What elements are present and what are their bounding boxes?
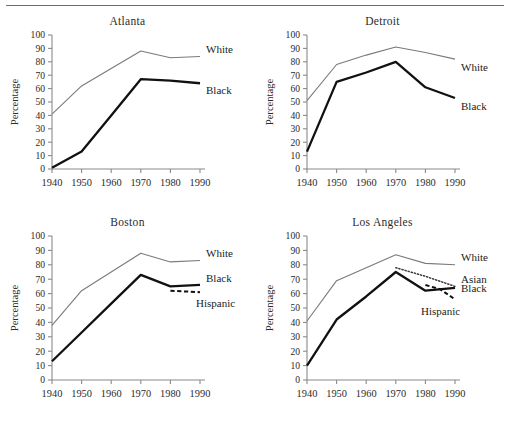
y-tick-label: 40 bbox=[290, 110, 300, 121]
x-tick-label: 1960 bbox=[101, 388, 122, 399]
x-tick-label: 1970 bbox=[130, 388, 151, 399]
y-tick-label: 100 bbox=[31, 230, 46, 241]
y-tick-label: 0 bbox=[40, 163, 45, 174]
x-tick-label: 1990 bbox=[190, 177, 211, 188]
y-tick-label: 100 bbox=[286, 230, 301, 241]
panel-atlanta: Atlanta 01020304050607080901001940195019… bbox=[0, 9, 255, 210]
y-tick-label: 50 bbox=[290, 96, 300, 107]
x-tick-label: 1960 bbox=[101, 177, 122, 188]
series-label-white: White bbox=[206, 43, 233, 55]
y-tick-label: 80 bbox=[290, 56, 300, 67]
y-tick-label: 10 bbox=[290, 360, 300, 371]
x-tick-label: 1990 bbox=[445, 177, 466, 188]
y-tick-label: 30 bbox=[290, 331, 300, 342]
x-tick-label: 1980 bbox=[160, 177, 181, 188]
x-tick-label: 1950 bbox=[71, 177, 92, 188]
y-axis-label: Percentage bbox=[9, 78, 20, 125]
series-line-white bbox=[307, 47, 455, 101]
y-tick-label: 70 bbox=[290, 274, 300, 285]
axis-lines bbox=[52, 236, 205, 380]
x-tick-label: 1990 bbox=[445, 388, 466, 399]
series-label-asian: Asian bbox=[461, 273, 487, 285]
x-tick-label: 1970 bbox=[130, 177, 151, 188]
series-label-black: Black bbox=[206, 84, 232, 96]
y-tick-label: 40 bbox=[35, 110, 45, 121]
x-tick-label: 1940 bbox=[297, 177, 318, 188]
x-tick-label: 1940 bbox=[42, 177, 63, 188]
y-tick-label: 50 bbox=[35, 302, 45, 313]
x-tick-label: 1940 bbox=[42, 388, 63, 399]
y-tick-label: 10 bbox=[290, 150, 300, 161]
panel-plot-los-angeles: 0102030405060708090100194019501960197019… bbox=[255, 210, 510, 421]
x-tick-label: 1990 bbox=[190, 388, 211, 399]
x-tick-label: 1950 bbox=[71, 388, 92, 399]
series-label-hispanic: Hispanic bbox=[421, 305, 460, 317]
y-tick-label: 30 bbox=[290, 123, 300, 134]
y-tick-label: 100 bbox=[31, 29, 46, 40]
y-tick-label: 70 bbox=[35, 70, 45, 81]
panel-plot-atlanta: 0102030405060708090100194019501960197019… bbox=[0, 9, 255, 210]
y-tick-label: 0 bbox=[295, 163, 300, 174]
y-tick-label: 0 bbox=[40, 374, 45, 385]
series-line-black bbox=[307, 272, 455, 366]
y-tick-label: 60 bbox=[35, 288, 45, 299]
y-tick-label: 70 bbox=[290, 70, 300, 81]
y-tick-label: 80 bbox=[35, 259, 45, 270]
series-line-hispanic bbox=[170, 291, 200, 292]
y-tick-label: 90 bbox=[290, 245, 300, 256]
x-tick-label: 1960 bbox=[356, 388, 377, 399]
y-tick-label: 30 bbox=[35, 123, 45, 134]
y-tick-label: 20 bbox=[35, 346, 45, 357]
x-tick-label: 1970 bbox=[385, 177, 406, 188]
y-tick-label: 10 bbox=[35, 150, 45, 161]
y-tick-label: 20 bbox=[290, 346, 300, 357]
y-tick-label: 90 bbox=[35, 43, 45, 54]
x-tick-label: 1950 bbox=[326, 388, 347, 399]
chart-panel-grid: Atlanta 01020304050607080901001940195019… bbox=[0, 9, 510, 421]
series-label-hispanic: Hispanic bbox=[196, 297, 235, 309]
x-tick-label: 1980 bbox=[160, 388, 181, 399]
series-label-black: Black bbox=[206, 272, 232, 284]
axis-lines bbox=[52, 35, 205, 169]
panel-boston: Boston 010203040506070809010019401950196… bbox=[0, 210, 255, 421]
series-label-black: Black bbox=[461, 100, 487, 112]
y-axis-label: Percentage bbox=[9, 284, 20, 331]
series-line-black bbox=[307, 62, 455, 152]
y-tick-label: 40 bbox=[35, 317, 45, 328]
y-tick-label: 0 bbox=[295, 374, 300, 385]
y-tick-label: 50 bbox=[35, 96, 45, 107]
y-axis-label: Percentage bbox=[264, 284, 275, 331]
y-tick-label: 70 bbox=[35, 274, 45, 285]
panel-los-angeles: Los Angeles 0102030405060708090100194019… bbox=[255, 210, 510, 421]
y-tick-label: 90 bbox=[290, 43, 300, 54]
y-tick-label: 10 bbox=[35, 360, 45, 371]
panel-plot-boston: 0102030405060708090100194019501960197019… bbox=[0, 210, 255, 421]
y-tick-label: 90 bbox=[35, 245, 45, 256]
x-tick-label: 1980 bbox=[415, 388, 436, 399]
y-tick-label: 30 bbox=[35, 331, 45, 342]
series-label-white: White bbox=[461, 251, 488, 263]
y-tick-label: 100 bbox=[286, 29, 301, 40]
y-tick-label: 80 bbox=[35, 56, 45, 67]
x-tick-label: 1940 bbox=[297, 388, 318, 399]
header-rule bbox=[6, 5, 504, 6]
y-axis-label: Percentage bbox=[264, 78, 275, 125]
y-tick-label: 40 bbox=[290, 317, 300, 328]
panel-detroit: Detroit 01020304050607080901001940195019… bbox=[255, 9, 510, 210]
x-tick-label: 1980 bbox=[415, 177, 436, 188]
series-label-white: White bbox=[461, 61, 488, 73]
series-line-black bbox=[52, 275, 200, 361]
panel-plot-detroit: 0102030405060708090100194019501960197019… bbox=[255, 9, 510, 210]
y-tick-label: 50 bbox=[290, 302, 300, 313]
x-tick-label: 1970 bbox=[385, 388, 406, 399]
y-tick-label: 20 bbox=[290, 137, 300, 148]
y-tick-label: 20 bbox=[35, 137, 45, 148]
series-line-white bbox=[52, 51, 200, 114]
y-tick-label: 80 bbox=[290, 259, 300, 270]
x-tick-label: 1950 bbox=[326, 177, 347, 188]
y-tick-label: 60 bbox=[290, 288, 300, 299]
y-tick-label: 60 bbox=[35, 83, 45, 94]
y-tick-label: 60 bbox=[290, 83, 300, 94]
series-label-white: White bbox=[206, 247, 233, 259]
x-tick-label: 1960 bbox=[356, 177, 377, 188]
